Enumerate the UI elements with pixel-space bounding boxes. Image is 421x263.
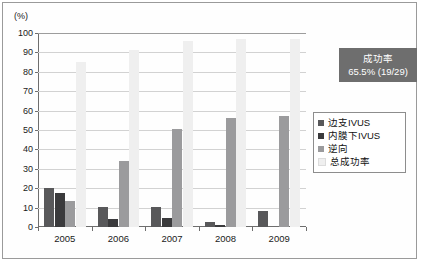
y-tick-label: 20: [23, 183, 33, 193]
bar: [65, 201, 75, 227]
success-rate-info-box: 成功率 65.5% (19/29): [339, 48, 417, 82]
bar: [183, 41, 193, 227]
bar: [119, 161, 129, 227]
bar: [151, 207, 161, 227]
legend-item: 逆向: [318, 142, 401, 155]
bar: [290, 39, 300, 227]
y-tick-label: 30: [23, 164, 33, 174]
bar: [205, 222, 215, 227]
bar: [226, 118, 236, 227]
y-tick-label: 100: [18, 28, 33, 38]
x-tick-mark: [38, 227, 39, 231]
y-tick-mark: [35, 111, 38, 112]
x-tick-mark: [92, 227, 93, 231]
legend-label: 逆向: [328, 142, 348, 155]
bar: [76, 62, 86, 227]
legend-item: 边支IVUS: [318, 116, 401, 129]
bar: [129, 50, 139, 227]
legend-label: 总成功率: [330, 155, 370, 168]
x-tick-label: 2007: [161, 233, 182, 244]
bar-chart: (%) 010203040506070809010020052006200720…: [0, 0, 421, 263]
x-tick-label: 2009: [269, 233, 290, 244]
y-tick-mark: [35, 130, 38, 131]
x-tick-mark: [252, 227, 253, 231]
gridline: [38, 52, 306, 53]
bar: [279, 116, 289, 227]
chart-legend: 边支IVUS内膜下IVUS逆向总成功率: [313, 112, 406, 173]
x-tick-mark: [145, 227, 146, 231]
success-rate-title: 成功率: [363, 53, 393, 65]
y-tick-label: 70: [23, 86, 33, 96]
bar: [108, 219, 118, 227]
y-tick-label: 90: [23, 47, 33, 57]
gridline: [38, 33, 306, 34]
legend-swatch-icon: [318, 158, 326, 166]
y-tick-mark: [35, 169, 38, 170]
legend-swatch-icon: [318, 120, 324, 126]
legend-item: 总成功率: [318, 155, 401, 168]
legend-label: 内膜下IVUS: [328, 129, 380, 142]
legend-swatch-icon: [318, 133, 324, 139]
y-tick-mark: [35, 91, 38, 92]
y-tick-mark: [35, 52, 38, 53]
legend-item: 内膜下IVUS: [318, 129, 401, 142]
bar: [162, 218, 172, 227]
bar: [236, 39, 246, 227]
y-tick-label: 0: [28, 222, 33, 232]
x-tick-label: 2006: [108, 233, 129, 244]
bar: [44, 188, 54, 227]
bar: [215, 225, 225, 227]
x-tick-mark: [199, 227, 200, 231]
x-tick-label: 2008: [215, 233, 236, 244]
x-tick-label: 2005: [54, 233, 75, 244]
y-tick-label: 10: [23, 203, 33, 213]
y-tick-mark: [35, 208, 38, 209]
bar: [172, 129, 182, 227]
y-tick-mark: [35, 72, 38, 73]
y-tick-label: 60: [23, 106, 33, 116]
bar: [98, 207, 108, 227]
plot-area: 0102030405060708090100200520062007200820…: [38, 33, 306, 227]
bar: [55, 193, 65, 227]
legend-label: 边支IVUS: [328, 116, 370, 129]
y-tick-mark: [35, 149, 38, 150]
y-tick-mark: [35, 33, 38, 34]
y-axis-unit-label: (%): [14, 11, 28, 21]
legend-swatch-icon: [318, 146, 324, 152]
success-rate-value: 65.5% (19/29): [348, 65, 408, 78]
bar: [258, 211, 268, 227]
y-tick-label: 40: [23, 144, 33, 154]
x-tick-mark: [306, 227, 307, 231]
y-tick-mark: [35, 188, 38, 189]
y-tick-label: 80: [23, 67, 33, 77]
y-tick-label: 50: [23, 125, 33, 135]
